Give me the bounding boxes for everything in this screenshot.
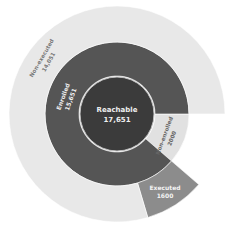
center-disc [80,77,154,151]
executed-label: Executed [149,184,180,191]
executed-value: 1600 [157,192,174,199]
sunburst-chart: Reachable 17,651 Enrolled 15,651 Non-enr… [0,0,231,230]
center-label: Reachable [97,106,138,114]
center-value: 17,651 [103,116,130,124]
